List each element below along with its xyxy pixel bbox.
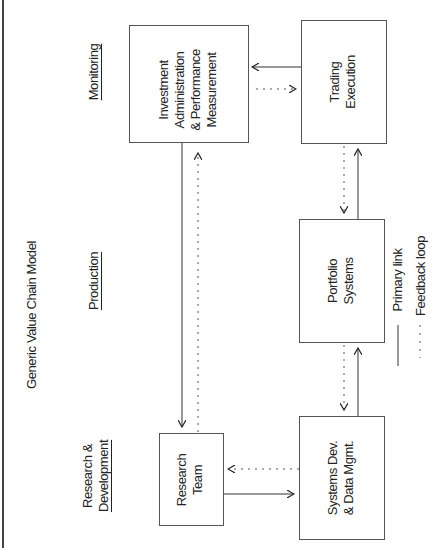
node-portfolio-systems-label: Portfolio Systems <box>325 241 359 321</box>
stage-label-research-development: Research & Development <box>80 434 116 518</box>
legend-feedback-label: Feedback loop <box>413 235 429 317</box>
diagram-title: Generic Value Chain Model <box>24 235 44 395</box>
stage-label-production: Production <box>86 239 104 323</box>
stage-label-monitoring: Monitoring <box>86 30 104 114</box>
node-investment-admin-label: Investment Administration & Performance … <box>156 42 222 138</box>
node-systems-dev-label: Systems Dev. & Data Mgmt. <box>325 433 359 523</box>
node-trading-execution-label: Trading Execution <box>327 42 361 122</box>
legend-primary-label: Primary link <box>390 245 406 315</box>
node-research-team-label: Research Team <box>174 445 208 515</box>
